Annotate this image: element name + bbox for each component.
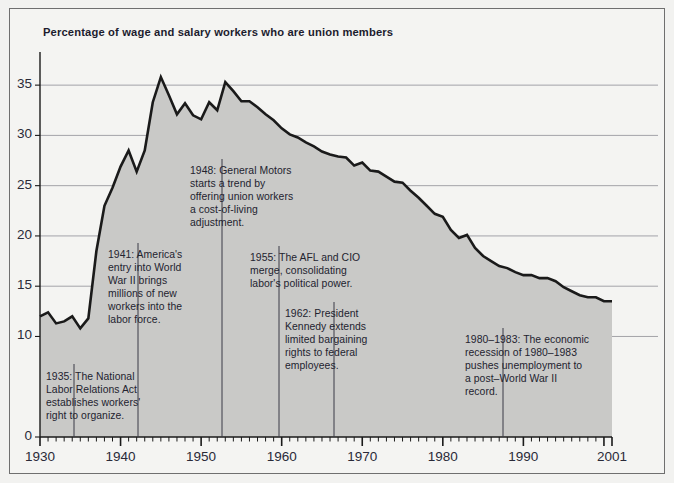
x-axis-tick-label: 1930 (10, 449, 70, 464)
annotation-line: a cost-of-living (190, 204, 293, 217)
annotation-line: Labor Relations Act (46, 384, 140, 397)
y-axis-tick-label: 20 (0, 227, 32, 242)
chart-annotation: 1980–1983: The economicrecession of 1980… (465, 334, 589, 399)
annotation-line: merge, consolidating (250, 265, 360, 278)
annotation-line: 1955: The AFL and CIO (250, 252, 360, 265)
annotation-line: Kennedy extends (285, 321, 367, 334)
chart-annotation: 1955: The AFL and CIOmerge, consolidatin… (250, 252, 360, 291)
chart-annotation: 1941: America'sentry into WorldWar II br… (108, 249, 182, 326)
annotation-line: establishes workers' (46, 397, 140, 410)
x-axis-tick-label: 1970 (332, 449, 392, 464)
x-axis-tick-label: 2001 (582, 449, 642, 464)
annotation-line: offering union workers (190, 191, 293, 204)
x-axis-tick-label: 1950 (171, 449, 231, 464)
annotation-line: War II brings (108, 275, 182, 288)
annotation-line: labor force. (108, 314, 182, 327)
x-axis-tick-label: 1940 (91, 449, 151, 464)
y-axis-tick-label: 10 (0, 327, 32, 342)
annotation-line: workers into the (108, 301, 182, 314)
annotation-line: 1935: The National (46, 371, 140, 384)
annotation-line: adjustment. (190, 217, 293, 230)
annotation-line: 1948: General Motors (190, 165, 293, 178)
x-axis-tick-label: 1990 (493, 449, 553, 464)
annotation-line: limited bargaining (285, 334, 367, 347)
y-axis-tick-label: 35 (0, 76, 32, 91)
annotation-line: recession of 1980–1983 (465, 347, 589, 360)
annotation-line: pushes unemployment to (465, 360, 589, 373)
annotation-line: 1980–1983: The economic (465, 334, 589, 347)
x-axis-tick-label: 1960 (252, 449, 312, 464)
annotation-line: 1962: President (285, 308, 367, 321)
annotation-line: millions of new (108, 288, 182, 301)
annotation-line: right to organize. (46, 410, 140, 423)
annotation-line: record. (465, 386, 589, 399)
y-axis-tick-label: 25 (0, 177, 32, 192)
x-axis-tick-label: 1980 (413, 449, 473, 464)
chart-figure: Percentage of wage and salary workers wh… (0, 0, 674, 483)
y-axis-tick-label: 0 (0, 428, 32, 443)
chart-annotation: 1948: General Motorsstarts a trend byoff… (190, 165, 293, 230)
annotation-line: employees. (285, 360, 367, 373)
annotation-line: 1941: America's (108, 249, 182, 262)
y-axis-tick-label: 15 (0, 277, 32, 292)
chart-annotation: 1962: PresidentKennedy extendslimited ba… (285, 308, 367, 373)
annotation-line: starts a trend by (190, 178, 293, 191)
annotation-line: labor's political power. (250, 278, 360, 291)
annotation-line: entry into World (108, 262, 182, 275)
y-axis-tick-label: 30 (0, 126, 32, 141)
chart-annotation: 1935: The NationalLabor Relations Actest… (46, 371, 140, 423)
annotation-line: a post–World War II (465, 373, 589, 386)
annotation-line: rights to federal (285, 347, 367, 360)
